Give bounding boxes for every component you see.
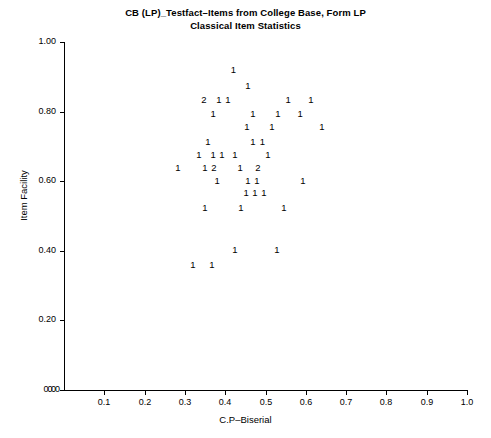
data-point-marker: 1: [216, 95, 221, 105]
data-point-marker: 1: [238, 203, 243, 213]
data-point-marker: 1: [298, 109, 303, 119]
data-point-marker: 1: [210, 150, 215, 160]
data-point-marker: 1: [245, 176, 250, 186]
data-point-marker: 1: [285, 95, 290, 105]
data-point-marker: 1: [175, 163, 180, 173]
data-point-marker: 1: [260, 137, 265, 147]
data-point-marker: 1: [237, 163, 242, 173]
data-point-marker: 1: [250, 109, 255, 119]
data-point-marker: 1: [202, 203, 207, 213]
data-point-marker: 1: [261, 188, 266, 198]
data-point-marker: 1: [225, 95, 230, 105]
data-point-marker: 1: [275, 109, 280, 119]
data-point-marker: 1: [244, 122, 249, 132]
data-point-marker: 2: [255, 163, 260, 173]
data-point-marker: 1: [210, 109, 215, 119]
data-point-marker: 1: [219, 150, 224, 160]
data-point-marker: 1: [250, 137, 255, 147]
data-point-marker: 1: [308, 95, 313, 105]
data-point-marker: 1: [252, 188, 257, 198]
data-point-marker: 1: [300, 176, 305, 186]
data-point-marker: 1: [196, 150, 201, 160]
data-point-marker: 1: [190, 260, 195, 270]
data-point-marker: 1: [265, 150, 270, 160]
scatter-plot-figure: CB (LP)_Testfact–Items from College Base…: [0, 0, 491, 438]
data-point-marker: 1: [231, 65, 236, 75]
data-point-marker: 1: [244, 188, 249, 198]
data-point-marker: 1: [232, 245, 237, 255]
data-point-marker: 1: [281, 203, 286, 213]
data-point-marker: 1: [245, 81, 250, 91]
data-point-marker: 1: [274, 245, 279, 255]
data-point-marker: 1: [319, 122, 324, 132]
data-point-layer: 1121111111111111111111112121111111111111…: [0, 0, 491, 438]
data-point-marker: 1: [254, 176, 259, 186]
data-point-marker: 1: [269, 122, 274, 132]
data-point-marker: 1: [205, 137, 210, 147]
data-point-marker: 1: [232, 150, 237, 160]
data-point-marker: 1: [202, 163, 207, 173]
data-point-marker: 1: [209, 260, 214, 270]
data-point-marker: 1: [214, 176, 219, 186]
data-point-marker: 2: [201, 95, 206, 105]
data-point-marker: 2: [211, 163, 216, 173]
